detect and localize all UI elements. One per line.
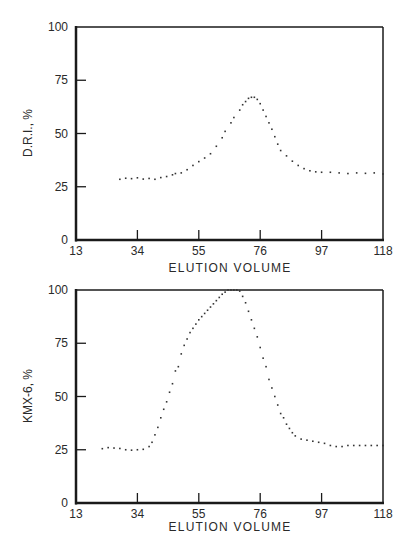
- data-point: [315, 171, 317, 173]
- data-point: [227, 289, 229, 291]
- data-point: [125, 177, 127, 179]
- kmx6-y-tick-label: 50: [55, 390, 69, 404]
- data-point: [233, 117, 235, 119]
- data-point: [175, 370, 177, 372]
- data-point: [195, 323, 197, 325]
- data-point: [365, 173, 367, 175]
- dri-x-tick-label: 97: [315, 244, 329, 258]
- data-point: [286, 423, 288, 425]
- data-point: [216, 145, 218, 147]
- data-point: [330, 171, 332, 173]
- data-point: [265, 366, 267, 368]
- data-point: [230, 122, 232, 124]
- data-point: [376, 445, 378, 447]
- data-point: [175, 173, 177, 175]
- data-point: [210, 153, 212, 155]
- data-point: [142, 178, 144, 180]
- data-point: [204, 157, 206, 159]
- data-point: [283, 417, 285, 419]
- data-point: [268, 122, 270, 124]
- data-point: [107, 447, 109, 449]
- data-point: [341, 446, 343, 448]
- data-point: [125, 449, 127, 451]
- data-point: [265, 116, 267, 118]
- data-point: [142, 449, 144, 451]
- data-point: [221, 137, 223, 139]
- data-point: [262, 357, 264, 359]
- data-point: [224, 291, 226, 293]
- data-point: [356, 172, 358, 174]
- dri-y-tick-label: 75: [55, 73, 69, 87]
- data-point: [335, 446, 337, 448]
- data-point: [347, 445, 349, 447]
- data-point: [259, 103, 261, 105]
- dri-chart: D.R.I., % ELUTION VOLUME 025507510013345…: [0, 0, 416, 275]
- data-point: [359, 445, 361, 447]
- data-point: [309, 170, 311, 172]
- data-point: [192, 165, 194, 167]
- data-point: [248, 98, 250, 100]
- data-point: [166, 176, 168, 178]
- data-point: [338, 172, 340, 174]
- dri-x-axis-label: ELUTION VOLUME: [169, 261, 292, 275]
- data-point: [274, 396, 276, 398]
- data-point: [286, 155, 288, 157]
- data-point: [210, 306, 212, 308]
- dri-y-axis-label: D.R.I., %: [21, 109, 35, 157]
- data-point: [148, 178, 150, 180]
- data-point: [178, 366, 180, 368]
- kmx6-y-tick-label: 75: [55, 336, 69, 350]
- data-point: [154, 434, 156, 436]
- kmx6-x-tick-label: 76: [254, 507, 268, 521]
- data-point: [365, 445, 367, 447]
- data-point: [251, 319, 253, 321]
- data-point: [259, 347, 261, 349]
- data-point: [183, 345, 185, 347]
- data-point: [218, 297, 220, 299]
- data-point: [163, 408, 165, 410]
- data-point: [373, 172, 375, 174]
- data-point: [166, 401, 168, 403]
- data-point: [242, 296, 244, 298]
- dri-x-tick-label: 34: [131, 244, 145, 258]
- kmx6-x-axis-label: ELUTION VOLUME: [169, 520, 292, 534]
- kmx6-x-tick-label: 55: [192, 507, 206, 521]
- data-point: [271, 128, 273, 130]
- data-point: [189, 332, 191, 334]
- data-point: [306, 439, 308, 441]
- data-point: [268, 379, 270, 381]
- dri-y-tick-label: 0: [61, 233, 68, 247]
- data-point: [280, 413, 282, 415]
- data-point: [151, 441, 153, 443]
- data-point: [236, 289, 238, 291]
- dri-data-points: [119, 96, 384, 180]
- dri-x-tick-label: 118: [373, 244, 392, 258]
- data-point: [119, 448, 121, 450]
- data-point: [312, 440, 314, 442]
- data-point: [245, 101, 247, 103]
- data-point: [371, 445, 373, 447]
- data-point: [180, 353, 182, 355]
- dri-chart-svg: D.R.I., % ELUTION VOLUME 025507510013345…: [0, 0, 416, 275]
- data-point: [201, 316, 203, 318]
- data-point: [242, 104, 244, 106]
- data-point: [254, 96, 256, 98]
- data-point: [216, 300, 218, 302]
- data-point: [186, 338, 188, 340]
- data-point: [131, 449, 133, 451]
- data-point: [292, 432, 294, 434]
- data-point: [157, 427, 159, 429]
- data-point: [119, 178, 121, 180]
- data-point: [230, 289, 232, 291]
- data-point: [277, 143, 279, 145]
- dri-x-tick-label: 55: [192, 244, 206, 258]
- kmx6-x-tick-label: 34: [131, 507, 145, 521]
- data-point: [137, 449, 139, 451]
- data-point: [113, 447, 115, 449]
- data-point: [198, 161, 200, 163]
- data-point: [347, 173, 349, 175]
- data-point: [221, 293, 223, 295]
- data-point: [102, 448, 104, 450]
- dri-x-tick-label: 13: [69, 244, 83, 258]
- kmx6-x-tick-label: 97: [315, 507, 329, 521]
